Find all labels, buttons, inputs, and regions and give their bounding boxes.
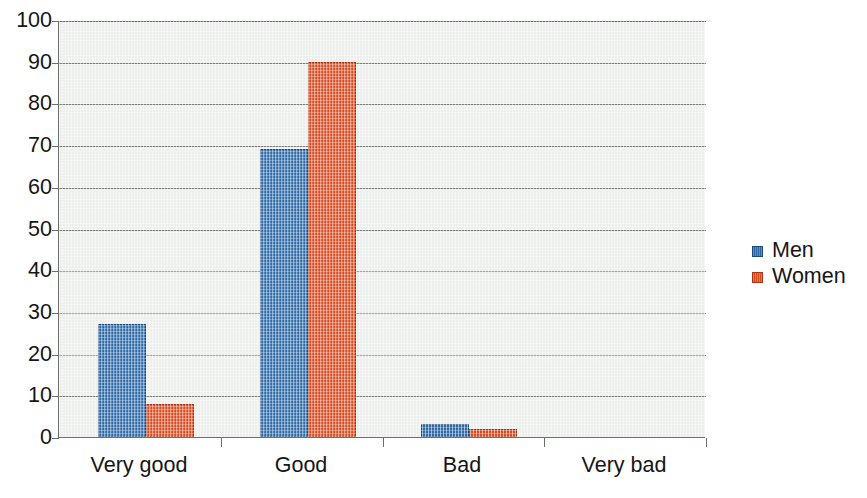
y-axis-tick-label: 80 [6,94,52,116]
y-axis-tick-label: 30 [6,302,52,324]
y-axis-tick-label: 0 [6,427,52,449]
gridline [59,313,706,314]
gridline [59,355,706,356]
legend-swatch-men-icon [752,246,763,257]
legend-item-men[interactable]: Men [752,238,864,264]
legend-item-women[interactable]: Women [752,264,864,290]
y-axis-tick-label: 40 [6,260,52,282]
x-axis-category-label: Bad [443,455,481,477]
bar-men-very-good [98,324,146,437]
gridline [59,271,706,272]
bar-men-bad [421,424,469,437]
x-axis-separator [221,438,222,447]
y-axis-tick-label: 90 [6,52,52,74]
bar-women-very-good [146,404,194,437]
legend-label: Women [772,266,846,288]
gridline [59,21,706,22]
y-axis-tick-label: 50 [6,219,52,241]
y-axis-tick-label: 100 [6,10,52,32]
y-axis-tick-label: 10 [6,386,52,408]
y-axis-tick-mark [52,438,59,439]
gridline [59,63,706,64]
legend-swatch-women-icon [752,272,763,283]
y-axis: 1009080706050403020100 [0,21,52,438]
bar-women-bad [469,429,517,437]
x-axis-separator [706,438,707,447]
x-axis: Very goodGoodBadVery bad [58,455,705,485]
y-axis-tick-label: 60 [6,177,52,199]
gridline [59,104,706,105]
gridline [59,146,706,147]
gridline [59,230,706,231]
bar-women-good [308,62,356,437]
plot-area [58,21,705,438]
legend-label: Men [772,240,814,262]
x-axis-separator [383,438,384,447]
y-axis-tick-label: 20 [6,344,52,366]
gridline [59,188,706,189]
bar-chart-figure: × ✕ ✡ – 1009080706050403020100 Very good… [0,0,867,498]
x-axis-category-label: Very good [91,455,188,477]
gridline [59,396,706,397]
x-axis-category-label: Good [275,455,328,477]
x-axis-separator [544,438,545,447]
y-axis-tick-label: 70 [6,135,52,157]
bar-men-good [260,149,308,437]
legend: MenWomen [752,238,864,290]
x-axis-category-label: Very bad [582,455,667,477]
